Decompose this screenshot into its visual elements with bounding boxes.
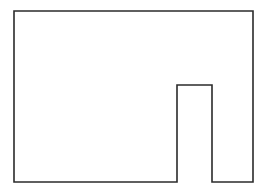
rectangle-with-bottom-notch-outline bbox=[14, 11, 253, 182]
figure-canvas bbox=[0, 0, 267, 192]
shape-diagram bbox=[0, 0, 267, 192]
